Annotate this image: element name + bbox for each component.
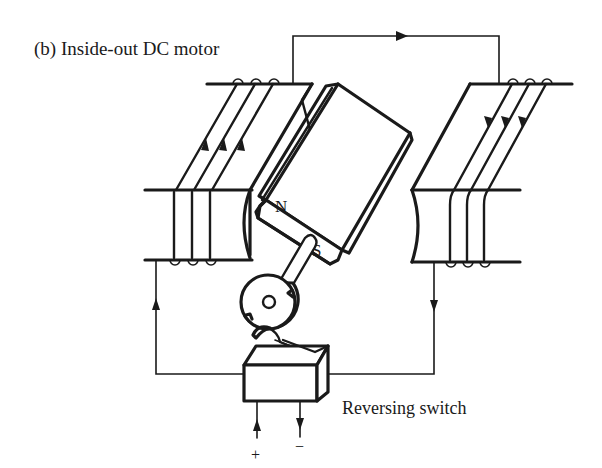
top-wire [293,31,499,84]
north-pole-label: N [275,197,287,216]
power-terminals: + − [251,401,304,463]
current-arrow-up-icon [152,298,160,310]
reversing-switch-label: Reversing switch [342,398,466,418]
plus-terminal-label: + [251,446,260,463]
minus-terminal-label: − [295,438,304,455]
inside-out-dc-motor-diagram: (b) Inside-out DC motor [0,0,602,468]
current-arrow-down-icon [430,300,438,312]
commutator-disc [241,275,298,329]
diagram-title: (b) Inside-out DC motor [34,38,220,60]
current-arrow-right-icon [396,31,408,41]
current-arrow-up-icon [253,419,261,431]
rotor-magnet: N S [256,84,412,264]
reversing-switch[interactable] [244,340,328,401]
right-stator [412,79,572,267]
current-arrow-down-icon [296,418,304,430]
